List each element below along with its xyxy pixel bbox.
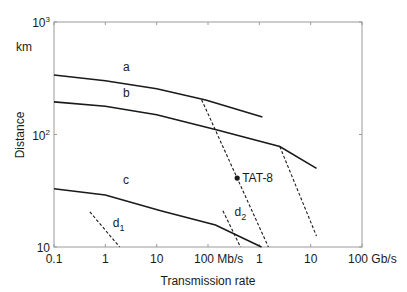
x-tick-label: 100 Mb/s [194,252,243,266]
x-tick-label: 1 [256,252,263,266]
y-axis-title: Distance [13,111,27,158]
y-axis: 10102103 [32,15,362,255]
y-tick-label: 103 [32,15,50,30]
x-axis: 0.1110100 Mb/s110100 Gb/s [46,22,397,266]
series-label-c: c [123,173,129,187]
series-label-d2: d2 [235,205,247,222]
plot-frame [54,22,362,247]
series-line-b [54,102,317,168]
series-label-d1: d1 [113,216,125,233]
y-tick-label: 102 [32,128,50,143]
series-line-c [54,189,262,247]
annotation-layer: TAT-8 [235,171,274,185]
tat8-label: TAT-8 [242,171,273,185]
x-tick-label: 100 Gb/s [348,252,397,266]
x-tick-label: 1 [102,252,109,266]
tat8-marker [235,175,240,180]
series-label-a: a [123,60,130,74]
x-tick-label: 10 [150,252,164,266]
y-unit-label: km [16,40,32,54]
series-line-a [54,75,262,117]
series-layer: abcd1d2 [54,60,317,247]
series-label-b: b [123,86,130,100]
distance-vs-rate-chart: 0.1110100 Mb/s110100 Gb/s 10102103 abcd1… [0,0,407,292]
x-tick-label: 10 [304,252,318,266]
series-line-high-rate-limit [280,147,317,237]
y-tick-label: 10 [37,241,51,255]
x-axis-title: Transmission rate [161,274,256,288]
